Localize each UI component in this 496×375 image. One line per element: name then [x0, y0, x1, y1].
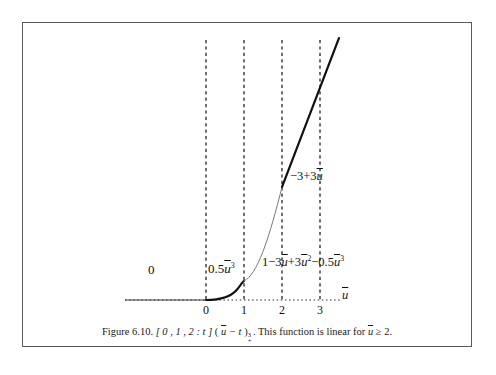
- linear-term: −3+3: [290, 169, 317, 183]
- x-axis-label: u: [342, 288, 348, 303]
- annotation-zero: 0: [148, 263, 155, 276]
- curve-segment-first-cubic: [206, 281, 244, 300]
- annotation-zero-text: 0: [148, 262, 155, 277]
- middle-term-3: −0.5: [311, 255, 334, 269]
- caption-tail-before-u: . This function is linear for: [253, 326, 368, 337]
- middle-term-1: 1−3: [262, 255, 282, 269]
- caption-tail-after-u: ≥ 2.: [373, 326, 392, 337]
- first-cubic-coefficient: 0.5: [208, 261, 224, 276]
- annotation-middle-cubic: 1−3u+3u2−0.5u3: [262, 256, 344, 269]
- caption-knot-bracket: [ 0 , 1 , 2 : t ]: [156, 326, 213, 337]
- linear-variable: u: [317, 169, 323, 183]
- figure-page: 0 0.5u3 1−3u+3u2−0.5u3 −3+3u 0 1 2 3 u F…: [0, 0, 496, 375]
- caption-subscript-plus: +: [248, 337, 252, 345]
- middle-exponent-3: 3: [340, 254, 344, 263]
- xtick-label-3: 3: [310, 303, 330, 318]
- middle-term-2: +3: [288, 255, 301, 269]
- figure-caption: Figure 6.10. [ 0 , 1 , 2 : t ] ( u − t )…: [30, 326, 464, 339]
- xtick-label-0: 0: [196, 303, 216, 318]
- curve-segment-linear-tail: [282, 38, 339, 187]
- xtick-label-1: 1: [234, 303, 254, 318]
- caption-figure-number: Figure 6.10.: [102, 326, 153, 337]
- annotation-first-cubic: 0.5u3: [208, 262, 235, 275]
- xtick-label-2: 2: [272, 303, 292, 318]
- annotation-linear: −3+3u: [290, 170, 323, 183]
- first-cubic-exponent: 3: [231, 261, 235, 270]
- plot-canvas: [0, 0, 496, 375]
- caption-minus-t: − t: [226, 326, 244, 337]
